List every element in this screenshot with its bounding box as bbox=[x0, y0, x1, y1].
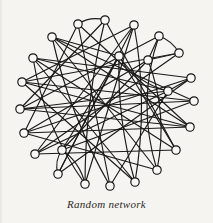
network-node bbox=[130, 21, 138, 29]
network-node bbox=[48, 33, 56, 41]
network-node bbox=[20, 129, 28, 137]
network-node bbox=[186, 123, 194, 131]
figure-caption: Random network bbox=[0, 198, 213, 210]
network-node bbox=[187, 74, 195, 82]
network-node bbox=[106, 182, 114, 190]
network-node bbox=[190, 97, 198, 105]
network-node bbox=[172, 146, 180, 154]
network-edge bbox=[62, 60, 148, 150]
network-node bbox=[164, 87, 172, 95]
network-edge bbox=[119, 56, 176, 150]
network-node bbox=[74, 20, 82, 28]
network-node bbox=[144, 56, 152, 64]
network-node bbox=[131, 178, 139, 186]
network-node bbox=[29, 54, 37, 62]
network-node bbox=[101, 16, 109, 24]
network-node bbox=[153, 166, 161, 174]
network-node bbox=[16, 105, 24, 113]
edge-layer bbox=[20, 19, 194, 186]
network-edge bbox=[22, 53, 179, 82]
network-graph bbox=[0, 0, 213, 223]
network-node bbox=[115, 52, 123, 60]
network-node bbox=[58, 146, 66, 154]
network-node bbox=[155, 32, 163, 40]
random-network-figure: Random network bbox=[0, 0, 213, 223]
network-edge bbox=[35, 150, 176, 154]
network-node bbox=[81, 180, 89, 188]
network-node bbox=[31, 150, 39, 158]
network-node bbox=[54, 170, 62, 178]
network-node bbox=[18, 78, 26, 86]
network-node bbox=[175, 49, 183, 57]
